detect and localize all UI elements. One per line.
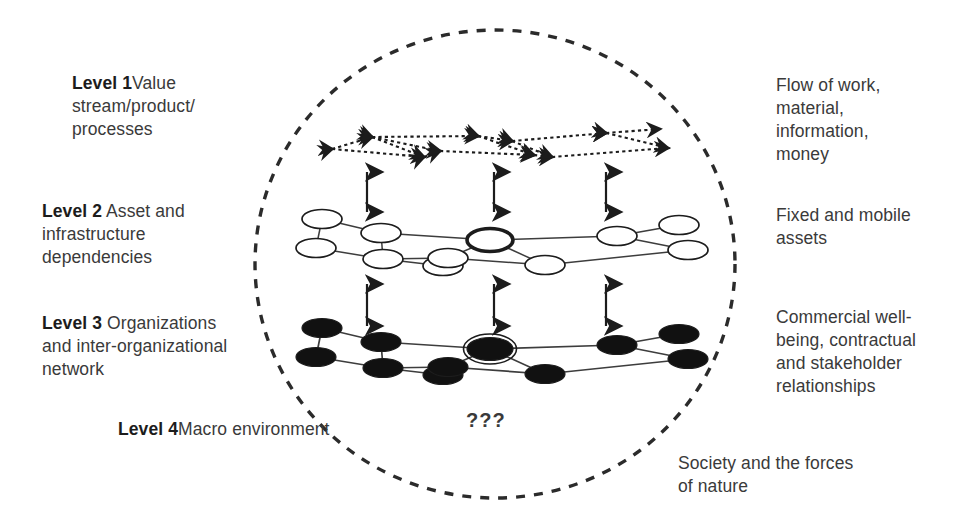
level-2-heading: Level 2 <box>42 201 102 221</box>
asset-node <box>467 229 513 252</box>
level-1-flow-edge <box>372 137 440 151</box>
asset-node <box>296 239 336 258</box>
level-1-flow-edge <box>606 129 660 133</box>
layer2-edge <box>545 250 688 265</box>
organization-node <box>363 359 403 378</box>
asset-node <box>597 227 637 246</box>
level-1-flow-edge <box>512 133 606 141</box>
level-1-flow-edge <box>424 151 440 157</box>
level-1-flow-edge <box>332 149 424 157</box>
level-3-heading: Level 3 <box>42 313 102 333</box>
unknown-marker-text: ??? <box>466 409 506 432</box>
asset-node <box>659 216 699 235</box>
level-3-right-label: Commercial well- being, contractual and … <box>776 306 966 398</box>
level-4-right-label: Society and the forces of nature <box>678 452 958 498</box>
level-1-flow-edge <box>332 137 372 149</box>
asset-node <box>363 250 403 269</box>
asset-node <box>525 256 565 275</box>
level-4-label: Level 4Macro environment <box>118 418 338 441</box>
level-1-flow-edge <box>606 133 668 148</box>
asset-node <box>302 210 342 229</box>
level-1-flow-edge <box>478 136 512 141</box>
organization-node <box>467 338 513 361</box>
level-3-label: Level 3 Organizations and inter-organiza… <box>42 312 287 381</box>
organization-node <box>659 325 699 344</box>
organization-node <box>361 333 401 352</box>
organization-node <box>296 348 336 367</box>
level-4-heading: Level 4 <box>118 419 178 439</box>
level-2-label: Level 2 Asset and infrastructure depende… <box>42 200 272 269</box>
organization-node <box>428 358 468 377</box>
level-1-label: Level 1Value stream/product/ processes <box>72 72 282 141</box>
level-1-flow-edge <box>552 148 668 157</box>
layer3-edge <box>545 359 688 374</box>
level-1-right-label: Flow of work, material, information, mon… <box>776 74 966 166</box>
organization-node <box>668 350 708 369</box>
asset-node <box>428 249 468 268</box>
organization-node <box>525 365 565 384</box>
level-4-description: Macro environment <box>178 419 329 439</box>
asset-node <box>361 224 401 243</box>
level-2-right-label: Fixed and mobile assets <box>776 204 966 250</box>
level-1-network-edges <box>332 129 668 157</box>
organization-node <box>302 319 342 338</box>
level-1-heading: Level 1 <box>72 73 132 93</box>
asset-node <box>668 241 708 260</box>
level-1-flow-edge <box>440 151 534 155</box>
organization-node <box>597 336 637 355</box>
level-1-flow-edge <box>372 136 478 137</box>
